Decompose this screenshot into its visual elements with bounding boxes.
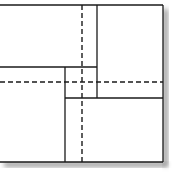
drop-shadow [0, 5, 168, 167]
shadow-strip [4, 162, 167, 167]
partition-diagram [0, 0, 172, 173]
shadow-strip [163, 9, 168, 166]
square-fill [0, 5, 163, 162]
